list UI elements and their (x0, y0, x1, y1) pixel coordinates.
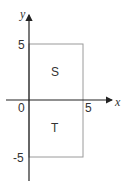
region-label-s: S (51, 65, 59, 79)
y-axis-label: y (19, 7, 26, 21)
y-tick-neg5: -5 (13, 151, 24, 165)
x-axis-label: x (114, 95, 121, 109)
coordinate-diagram: x y 0 5 5 -5 S T (0, 0, 125, 189)
region-label-t: T (51, 121, 59, 135)
x-tick-5: 5 (85, 101, 92, 115)
y-tick-5: 5 (18, 38, 25, 52)
origin-label: 0 (18, 101, 25, 115)
